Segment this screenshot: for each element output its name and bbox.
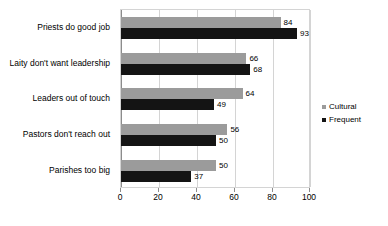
bar-groups: 84 93 66 68 64	[121, 10, 309, 187]
legend-item-cultural[interactable]: Cultural	[322, 100, 386, 113]
tick-label: 100	[302, 192, 316, 202]
bar-frequent	[121, 28, 297, 39]
bar-frequent	[121, 135, 216, 146]
category-label: Priests do good job	[37, 9, 110, 45]
legend: Cultural Frequent	[322, 100, 386, 126]
bar-value-label: 49	[217, 99, 226, 110]
tick-label: 20	[153, 192, 162, 202]
bar-row-cultural: 66	[121, 53, 309, 64]
bar-value-label: 50	[219, 135, 228, 146]
legend-swatch-icon	[322, 105, 326, 109]
bar-row-cultural: 84	[121, 17, 309, 28]
bar-row-frequent: 68	[121, 64, 309, 75]
bar-cultural	[121, 88, 243, 99]
category-label: Leaders out of touch	[32, 81, 110, 117]
legend-label: Frequent	[329, 115, 361, 124]
bar-row-frequent: 50	[121, 135, 309, 146]
plot-area: 84 93 66 68 64	[120, 9, 310, 188]
bar-group: 64 49	[121, 82, 309, 118]
bar-chart: Priests do good job Laity don't want lea…	[0, 0, 388, 226]
tick-label: 80	[267, 192, 276, 202]
legend-swatch-icon	[322, 118, 326, 122]
bar-row-frequent: 49	[121, 99, 309, 110]
bar-value-label: 64	[246, 88, 255, 99]
tick-label: 0	[118, 192, 123, 202]
bar-group: 66 68	[121, 46, 309, 82]
bar-cultural	[121, 53, 246, 64]
bar-frequent	[121, 64, 250, 75]
bar-group: 50 37	[121, 153, 309, 189]
bar-row-frequent: 93	[121, 28, 309, 39]
category-label: Pastors don't reach out	[23, 116, 110, 152]
legend-item-frequent[interactable]: Frequent	[322, 113, 386, 126]
category-label: Laity don't want leadership	[10, 45, 110, 81]
bar-group: 84 93	[121, 10, 309, 46]
bar-group: 56 50	[121, 117, 309, 153]
bar-row-cultural: 64	[121, 88, 309, 99]
category-label: Parishes too big	[49, 152, 110, 188]
bar-value-label: 84	[284, 17, 293, 28]
bar-frequent	[121, 171, 191, 182]
bar-frequent	[121, 99, 214, 110]
tick-label: 60	[229, 192, 238, 202]
gridline-100	[310, 10, 311, 187]
bar-row-cultural: 50	[121, 160, 309, 171]
bar-value-label: 50	[219, 160, 228, 171]
bar-value-label: 68	[253, 64, 262, 75]
bar-value-label: 56	[230, 124, 239, 135]
bar-value-label: 66	[249, 53, 258, 64]
bar-cultural	[121, 124, 227, 135]
category-axis-labels: Priests do good job Laity don't want lea…	[0, 9, 115, 188]
value-axis-tick-labels: 0 20 40 60 80 100	[120, 192, 310, 206]
bar-value-label: 37	[194, 171, 203, 182]
legend-label: Cultural	[329, 102, 357, 111]
bar-row-cultural: 56	[121, 124, 309, 135]
bar-cultural	[121, 160, 216, 171]
bar-cultural	[121, 17, 281, 28]
bar-value-label: 93	[300, 28, 309, 39]
bar-row-frequent: 37	[121, 171, 309, 182]
tick-label: 40	[191, 192, 200, 202]
